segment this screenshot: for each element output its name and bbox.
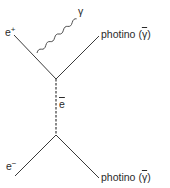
photon-symbol: γ bbox=[78, 5, 83, 17]
photino-top-line bbox=[56, 36, 99, 79]
photino-bottom-name: photino bbox=[101, 171, 135, 183]
selectron-label: e bbox=[59, 99, 65, 110]
photino-top-close-paren: ) bbox=[147, 28, 151, 40]
positron-charge: + bbox=[11, 25, 16, 34]
photino-top-label: photino (γ) bbox=[101, 29, 151, 40]
electron-line bbox=[15, 135, 56, 176]
selectron-symbol: e bbox=[59, 98, 65, 110]
positron-label: e+ bbox=[5, 26, 16, 38]
photon-label: γ bbox=[78, 6, 83, 17]
photino-bottom-line bbox=[56, 135, 99, 178]
electron-charge: − bbox=[12, 159, 17, 168]
electron-label: e− bbox=[6, 160, 17, 172]
photino-top-name: photino bbox=[101, 28, 135, 40]
photino-bottom-close-paren: ) bbox=[147, 171, 151, 183]
photon-wavy-line bbox=[37, 19, 77, 53]
photino-bottom-label: photino (γ) bbox=[101, 172, 151, 183]
